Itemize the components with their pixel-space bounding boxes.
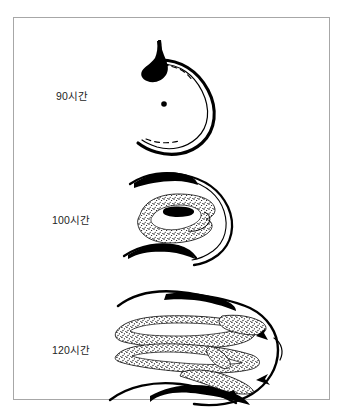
stage-label-120: 120시간 [52, 345, 91, 356]
stage-120-top-band [164, 293, 236, 311]
stage-label-90: 90시간 [56, 91, 88, 102]
stage-120-stipple-structures [115, 315, 266, 394]
stage-100-bottom-band [128, 244, 195, 259]
stage-label-100: 100시간 [52, 215, 91, 226]
stage-90-center-dot [161, 101, 167, 107]
stage-120-illustration [106, 286, 292, 412]
stage-100-stipple-mass [138, 194, 215, 243]
stage-100-top-band [134, 172, 198, 188]
stage-90-illustration [132, 40, 252, 158]
stage-90-black-blob [141, 41, 168, 82]
figure-root: 90시간 100시간 [0, 0, 344, 416]
stage-100-illustration [118, 168, 268, 270]
stage-100-black-slot [163, 207, 194, 217]
figure-frame: 90시간 100시간 [13, 17, 330, 400]
